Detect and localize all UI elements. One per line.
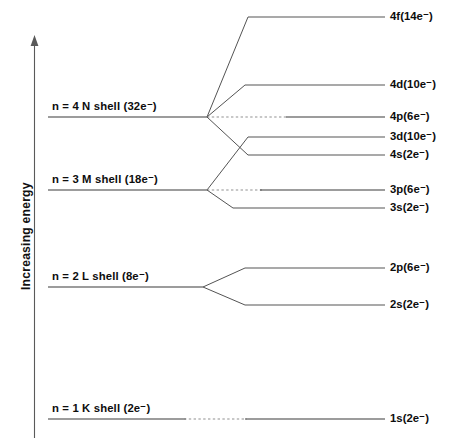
subshell-label-3s: 3s(2e⁻) xyxy=(390,202,429,213)
subshell-label-4s: 4s(2e⁻) xyxy=(390,149,429,160)
branch-line-2p xyxy=(203,268,385,287)
subshell-label-4p: 4p(6e⁻) xyxy=(390,111,430,122)
subshell-label-2p: 2p(6e⁻) xyxy=(390,262,430,273)
subshell-label-1s: 1s(2e⁻) xyxy=(390,413,429,424)
subshell-label-2s: 2s(2e⁻) xyxy=(390,299,429,310)
branch-line-4s xyxy=(207,117,385,155)
branch-line-3s xyxy=(207,190,385,208)
axis-label-increasing-energy: Increasing energy xyxy=(20,182,32,290)
up-arrow-icon xyxy=(31,35,39,46)
shell-group-n4 xyxy=(48,17,385,155)
branch-line-4d xyxy=(207,85,385,117)
energy-level-diagram: Increasing energy n = 4 N shell (32e⁻) n… xyxy=(0,0,456,442)
shell-label-n2: n = 2 L shell (8e⁻) xyxy=(52,271,149,282)
shell-label-n1: n = 1 K shell (2e⁻) xyxy=(52,403,150,414)
branch-line-2s xyxy=(203,287,385,305)
subshell-label-3d: 3d(10e⁻) xyxy=(390,131,436,142)
shell-label-n4: n = 4 N shell (32e⁻) xyxy=(52,101,157,112)
subshell-label-4d: 4d(10e⁻) xyxy=(390,79,436,90)
shell-label-n3: n = 3 M shell (18e⁻) xyxy=(52,174,158,185)
branch-line-3d xyxy=(207,137,385,190)
subshell-label-4f: 4f(14e⁻) xyxy=(390,11,433,22)
subshell-label-3p: 3p(6e⁻) xyxy=(390,184,430,195)
diagram-canvas xyxy=(0,0,456,442)
branch-line-4f xyxy=(207,17,385,117)
